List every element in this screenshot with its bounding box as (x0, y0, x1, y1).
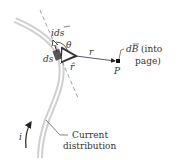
ids-label: ids (51, 28, 65, 38)
r-vector (76, 56, 115, 61)
current-i-label: i (19, 132, 22, 142)
ds-label: ds (43, 54, 54, 64)
db-into-label: (into (141, 44, 162, 54)
theta-label: θ (66, 40, 72, 50)
db-label: dB (126, 44, 139, 54)
current-distribution-wire (15, 20, 62, 158)
distribution-label-line1: Current (72, 130, 108, 140)
current-direction-arrow (26, 122, 31, 148)
r-hat-label: r̂ (70, 62, 75, 72)
r-label: r (89, 47, 94, 57)
point-p-marker (116, 59, 120, 63)
db-leader-line (119, 49, 124, 59)
biot-savart-diagram: ids θ ds r r̂ P dB (into page) i Current… (0, 0, 181, 160)
r-hat-arrow (60, 55, 76, 56)
point-p-label: P (113, 66, 121, 76)
distribution-label-line2: distribution (63, 141, 117, 151)
db-page-label: page) (135, 56, 161, 66)
ids-vector-arrow-icon (64, 26, 70, 27)
